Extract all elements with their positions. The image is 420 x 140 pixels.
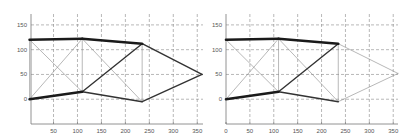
y-tick-label: 100	[17, 47, 28, 53]
chart-panel-1: 50100150200250300350050100150	[17, 14, 203, 134]
truss-member-EF	[30, 92, 83, 99]
y-tick-label: 100	[212, 47, 223, 53]
x-tick-label: 50	[247, 128, 254, 134]
y-tick-label: 0	[24, 96, 28, 102]
truss-member-BG	[82, 39, 142, 102]
x-tick-label: 250	[340, 128, 351, 134]
x-tick-label: 350	[192, 128, 203, 134]
truss-member-CD	[338, 44, 398, 74]
truss-charts: 5010015020025030035005010015005010015020…	[0, 0, 420, 140]
truss-member-FC	[82, 44, 142, 92]
x-tick-label: 150	[293, 128, 304, 134]
truss-member-DG	[338, 73, 398, 101]
x-tick-label: 0	[224, 128, 228, 134]
x-tick-label: 100	[269, 128, 280, 134]
truss-member-FG	[279, 92, 339, 102]
truss-member-BC	[279, 39, 339, 44]
x-tick-label: 100	[72, 128, 83, 134]
y-tick-label: 50	[215, 71, 222, 77]
chart-panel-2: 050100150200250300350050100150	[212, 14, 399, 134]
truss-member-EF	[226, 92, 279, 99]
y-tick-label: 50	[20, 71, 27, 77]
truss-member-FG	[82, 92, 142, 102]
truss-member-FC	[279, 44, 339, 92]
truss-member-BC	[82, 39, 142, 44]
truss-member-AB	[226, 39, 279, 40]
y-tick-label: 150	[17, 22, 28, 28]
x-tick-label: 200	[120, 128, 131, 134]
y-tick-label: 150	[212, 22, 223, 28]
x-tick-label: 350	[388, 128, 399, 134]
truss-member-DG	[142, 74, 202, 101]
truss-member-BG	[279, 39, 339, 102]
x-tick-label: 150	[96, 128, 107, 134]
x-tick-label: 200	[317, 128, 328, 134]
y-tick-label: 0	[219, 96, 223, 102]
x-tick-label: 300	[364, 128, 375, 134]
x-tick-label: 50	[50, 128, 57, 134]
truss-member-CD	[142, 44, 202, 75]
x-tick-label: 300	[168, 128, 179, 134]
x-tick-label: 250	[144, 128, 155, 134]
truss-member-AB	[30, 39, 83, 40]
